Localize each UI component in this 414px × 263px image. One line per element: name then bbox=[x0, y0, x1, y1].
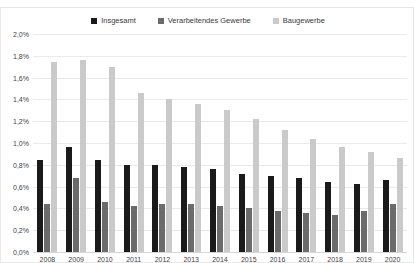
chart-container: · · · · · · · · InsgesamtVerarbeitendes … bbox=[0, 0, 414, 263]
bar-2010-series-3[interactable] bbox=[109, 67, 115, 252]
bar-2010-series-1[interactable] bbox=[95, 160, 101, 252]
bar-group-2018 bbox=[321, 34, 350, 252]
y-axis-tick-label: 0,6% bbox=[13, 184, 29, 191]
bar-group-2009 bbox=[62, 34, 91, 252]
bar-2019-series-1[interactable] bbox=[354, 184, 360, 252]
x-axis-label-2013: 2013 bbox=[177, 254, 206, 263]
bar-2014-series-3[interactable] bbox=[224, 110, 230, 252]
y-axis-tick-label: 1,8% bbox=[13, 53, 29, 60]
x-axis-label-2017: 2017 bbox=[292, 254, 321, 263]
x-axis-label-2012: 2012 bbox=[148, 254, 177, 263]
legend-item-3[interactable]: Baugewerbe bbox=[273, 17, 325, 25]
bar-2012-series-1[interactable] bbox=[152, 165, 158, 252]
y-axis-tick-label: 0,2% bbox=[13, 227, 29, 234]
x-axis-label-2016: 2016 bbox=[263, 254, 292, 263]
x-axis-label-2015: 2015 bbox=[234, 254, 263, 263]
x-axis-label-2011: 2011 bbox=[119, 254, 148, 263]
bar-2015-series-2[interactable] bbox=[246, 208, 252, 252]
bar-2008-series-3[interactable] bbox=[51, 62, 57, 252]
bar-2019-series-2[interactable] bbox=[361, 211, 367, 252]
bar-2012-series-3[interactable] bbox=[166, 99, 172, 252]
bar-2012-series-2[interactable] bbox=[159, 204, 165, 252]
bar-group-2012 bbox=[148, 34, 177, 252]
bar-group-2020 bbox=[378, 34, 407, 252]
bar-2017-series-1[interactable] bbox=[296, 178, 302, 252]
gridline-0,0%: 0,0% bbox=[33, 252, 407, 253]
x-axis-label-2009: 2009 bbox=[62, 254, 91, 263]
bar-2019-series-3[interactable] bbox=[368, 152, 374, 252]
y-axis-tick-label: 2,0% bbox=[13, 31, 29, 38]
bar-2017-series-3[interactable] bbox=[310, 139, 316, 252]
bar-2011-series-3[interactable] bbox=[138, 93, 144, 252]
x-axis-label-2008: 2008 bbox=[33, 254, 62, 263]
bar-2011-series-2[interactable] bbox=[131, 206, 137, 252]
bar-2013-series-3[interactable] bbox=[195, 104, 201, 252]
y-axis-tick-label: 1,4% bbox=[13, 96, 29, 103]
bar-2011-series-1[interactable] bbox=[124, 165, 130, 252]
bar-2018-series-2[interactable] bbox=[332, 215, 338, 252]
bar-2009-series-2[interactable] bbox=[73, 178, 79, 252]
bar-2008-series-1[interactable] bbox=[37, 160, 43, 252]
legend-label: Verarbeitendes Gewerbe bbox=[168, 17, 251, 25]
bar-2020-series-1[interactable] bbox=[383, 180, 389, 252]
bar-group-2019 bbox=[349, 34, 378, 252]
x-axis-label-2014: 2014 bbox=[206, 254, 235, 263]
chart-frame: InsgesamtVerarbeitendes GewerbeBaugewerb… bbox=[0, 7, 414, 263]
bar-group-2014 bbox=[206, 34, 235, 252]
y-axis-tick-label: 0,0% bbox=[13, 249, 29, 256]
bar-group-2013 bbox=[177, 34, 206, 252]
legend-swatch-verarbeitendes-gewerbe bbox=[158, 18, 164, 24]
bar-2009-series-1[interactable] bbox=[66, 147, 72, 252]
y-axis-tick-label: 1,2% bbox=[13, 118, 29, 125]
x-axis-labels: 2008200920102011201220132014201520162017… bbox=[33, 254, 407, 263]
bar-group-2010 bbox=[91, 34, 120, 252]
bar-2010-series-2[interactable] bbox=[102, 202, 108, 252]
legend-label: Insgesamt bbox=[101, 17, 136, 25]
legend-item-1[interactable]: Insgesamt bbox=[91, 17, 136, 25]
bar-2015-series-1[interactable] bbox=[239, 174, 245, 252]
bar-2016-series-2[interactable] bbox=[275, 211, 281, 252]
x-axis-label-2018: 2018 bbox=[321, 254, 350, 263]
bar-2014-series-1[interactable] bbox=[210, 169, 216, 252]
bar-2014-series-2[interactable] bbox=[217, 206, 223, 252]
bar-group-2016 bbox=[263, 34, 292, 252]
x-axis-label-2010: 2010 bbox=[91, 254, 120, 263]
bar-group-2017 bbox=[292, 34, 321, 252]
bar-2017-series-2[interactable] bbox=[303, 213, 309, 252]
bar-2018-series-1[interactable] bbox=[325, 182, 331, 252]
bar-2016-series-3[interactable] bbox=[282, 130, 288, 252]
legend-swatch-insgesamt bbox=[91, 18, 97, 24]
bar-2009-series-3[interactable] bbox=[80, 60, 86, 252]
legend-label: Baugewerbe bbox=[283, 17, 325, 25]
bar-2018-series-3[interactable] bbox=[339, 147, 345, 252]
legend-swatch-baugewerbe bbox=[273, 18, 279, 24]
bars-layer bbox=[33, 34, 407, 252]
y-axis-tick-label: 1,6% bbox=[13, 75, 29, 82]
y-axis-tick-label: 1,0% bbox=[13, 140, 29, 147]
bar-2013-series-2[interactable] bbox=[188, 204, 194, 252]
bar-2013-series-1[interactable] bbox=[181, 167, 187, 252]
bar-2015-series-3[interactable] bbox=[253, 119, 259, 252]
bar-2020-series-3[interactable] bbox=[397, 158, 403, 252]
bar-group-2008 bbox=[33, 34, 62, 252]
bar-group-2011 bbox=[119, 34, 148, 252]
chart-legend: InsgesamtVerarbeitendes GewerbeBaugewerb… bbox=[1, 17, 414, 25]
plot-area: 2,0%1,8%1,6%1,4%1,2%1,0%0,8%0,6%0,4%0,2%… bbox=[33, 34, 407, 252]
legend-item-2[interactable]: Verarbeitendes Gewerbe bbox=[158, 17, 251, 25]
bar-2016-series-1[interactable] bbox=[268, 176, 274, 252]
bar-2008-series-2[interactable] bbox=[44, 204, 50, 252]
y-axis-tick-label: 0,8% bbox=[13, 162, 29, 169]
bar-group-2015 bbox=[234, 34, 263, 252]
y-axis-tick-label: 0,4% bbox=[13, 205, 29, 212]
x-axis-label-2020: 2020 bbox=[378, 254, 407, 263]
cropped-header-text: · · · · · · · · bbox=[0, 0, 414, 7]
x-axis-label-2019: 2019 bbox=[349, 254, 378, 263]
bar-2020-series-2[interactable] bbox=[390, 204, 396, 252]
